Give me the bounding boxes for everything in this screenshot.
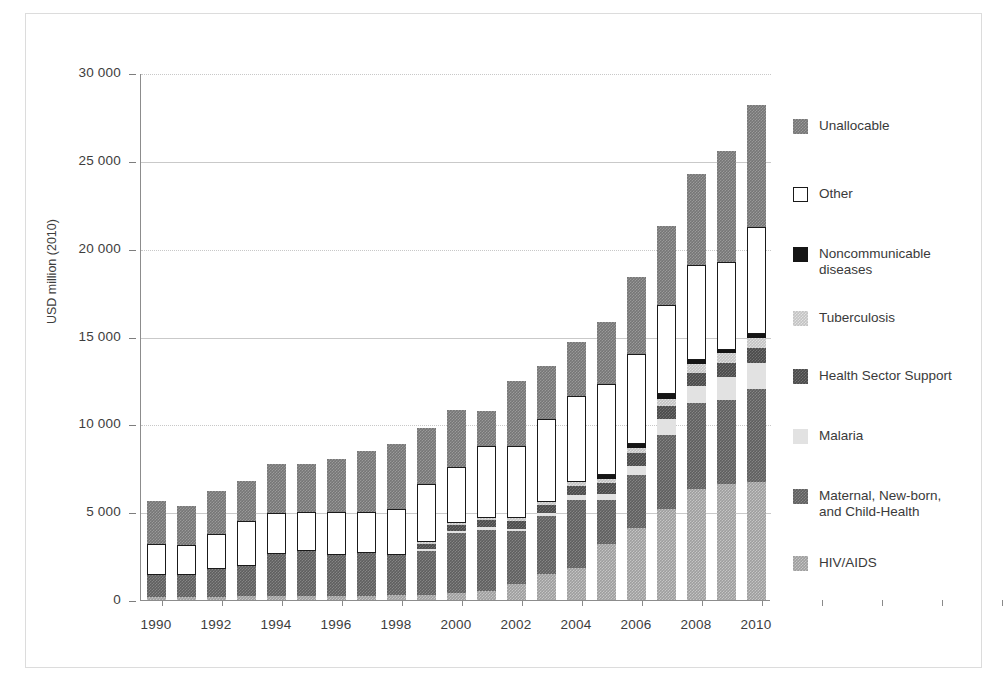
bar-segment-hiv-2004	[567, 568, 586, 600]
bar-segment-unallocable-1995	[297, 464, 316, 512]
y-tick-25000	[129, 162, 136, 163]
y-axis-title: USD million (2010)	[45, 219, 59, 324]
bar-segment-hiv-2003	[537, 574, 556, 600]
bar-segment-mnch-1994	[267, 554, 286, 596]
legend-label-malaria: Malaria	[819, 428, 863, 444]
bar-1998[interactable]	[387, 73, 406, 600]
bar-segment-mnch-2003	[537, 516, 556, 574]
bar-1991[interactable]	[177, 73, 196, 600]
bar-segment-other-2006	[627, 354, 646, 444]
bar-segment-hss-2009	[717, 363, 736, 377]
bar-2002[interactable]	[507, 73, 526, 600]
legend-item-hiv[interactable]: HIV/AIDS	[793, 555, 877, 571]
bar-2009[interactable]	[717, 73, 736, 600]
x-tick-2004	[1002, 600, 1003, 606]
bar-segment-hiv-2001	[477, 591, 496, 600]
bar-segment-malaria-1999	[417, 549, 436, 551]
legend-label-ncd: Noncommunicable diseases	[819, 246, 931, 278]
bar-segment-unallocable-2005	[597, 322, 616, 383]
bar-segment-mnch-2004	[567, 500, 586, 569]
bar-segment-other-2005	[597, 384, 616, 475]
bar-segment-mnch-2002	[507, 531, 526, 584]
legend-item-hss[interactable]: Health Sector Support	[793, 368, 952, 384]
bar-segment-hiv-2010	[747, 482, 766, 600]
bar-2007[interactable]	[657, 73, 676, 600]
y-tick-20000	[129, 250, 136, 251]
x-tick-1991	[222, 600, 223, 606]
y-tick-label-20000: 20 000	[49, 241, 121, 256]
x-axis-label-1992: 1992	[186, 617, 246, 632]
bar-segment-hiv-1996	[327, 596, 346, 600]
x-axis-label-1998: 1998	[366, 617, 426, 632]
bar-segment-tb-2010	[747, 338, 766, 348]
bar-segment-unallocable-2000	[447, 410, 466, 466]
bar-segment-other-1997	[357, 512, 376, 553]
x-tick-1990	[162, 600, 163, 606]
bar-segment-mnch-1999	[417, 551, 436, 595]
bar-2010[interactable]	[747, 73, 766, 600]
bar-2004[interactable]	[567, 73, 586, 600]
legend-item-mnch[interactable]: Maternal, New-born, and Child-Health	[793, 488, 941, 520]
chart-container: USD million (2010) 05 00010 00015 00020 …	[0, 0, 1006, 691]
bar-segment-hss-1999	[417, 544, 436, 549]
legend-item-ncd[interactable]: Noncommunicable diseases	[793, 246, 931, 278]
bar-segment-hiv-1995	[297, 596, 316, 600]
bar-segment-unallocable-1993	[237, 481, 256, 521]
x-tick-1994	[402, 600, 403, 606]
bar-2000[interactable]	[447, 73, 466, 600]
bar-1995[interactable]	[297, 73, 316, 600]
bar-segment-malaria-2009	[717, 377, 736, 400]
bar-1992[interactable]	[207, 73, 226, 600]
x-tick-2002	[882, 600, 883, 606]
bar-2006[interactable]	[627, 73, 646, 600]
bar-segment-other-2007	[657, 305, 676, 395]
bar-segment-hiv-1991	[177, 597, 196, 600]
bar-segment-malaria-2004	[567, 495, 586, 499]
bar-1990[interactable]	[147, 73, 166, 600]
bar-segment-unallocable-1998	[387, 444, 406, 509]
legend-label-hiv: HIV/AIDS	[819, 555, 877, 571]
bar-1996[interactable]	[327, 73, 346, 600]
x-axis-label-1990: 1990	[126, 617, 186, 632]
bar-1997[interactable]	[357, 73, 376, 600]
bar-2008[interactable]	[687, 73, 706, 600]
legend-swatch-hiv-icon	[793, 556, 808, 571]
bar-segment-mnch-2006	[627, 475, 646, 528]
legend-swatch-malaria-icon	[793, 429, 808, 444]
bar-2001[interactable]	[477, 73, 496, 600]
bar-segment-hss-2004	[567, 486, 586, 496]
y-tick-label-15000: 15 000	[49, 329, 121, 344]
bar-segment-unallocable-1994	[267, 464, 286, 512]
legend-item-malaria[interactable]: Malaria	[793, 428, 863, 444]
bar-segment-hiv-1992	[207, 597, 226, 600]
x-axis-label-2008: 2008	[666, 617, 726, 632]
bar-segment-hss-2001	[477, 520, 496, 527]
bar-segment-hiv-1998	[387, 595, 406, 600]
legend-swatch-ncd-icon	[793, 247, 808, 262]
bar-segment-malaria-2006	[627, 466, 646, 476]
bar-segment-mnch-1997	[357, 553, 376, 595]
bar-segment-tb-2005	[597, 479, 616, 483]
legend-item-other[interactable]: Other	[793, 186, 853, 202]
bar-segment-unallocable-1996	[327, 459, 346, 512]
bar-segment-other-1990	[147, 544, 166, 576]
legend-item-tb[interactable]: Tuberculosis	[793, 310, 895, 326]
bar-segment-hss-2005	[597, 483, 616, 494]
legend-item-unallocable[interactable]: Unallocable	[793, 118, 890, 134]
x-tick-1997	[582, 600, 583, 606]
bar-segment-hiv-2002	[507, 584, 526, 600]
bar-2005[interactable]	[597, 73, 616, 600]
bar-segment-mnch-1993	[237, 566, 256, 597]
y-tick-15000	[129, 338, 136, 339]
bar-segment-ncd-2010	[747, 334, 766, 338]
bar-segment-mnch-1998	[387, 555, 406, 595]
bar-1999[interactable]	[417, 73, 436, 600]
bar-segment-hiv-2000	[447, 593, 466, 600]
bar-segment-hiv-2008	[687, 489, 706, 600]
bar-segment-unallocable-1990	[147, 501, 166, 544]
bar-1993[interactable]	[237, 73, 256, 600]
bar-1994[interactable]	[267, 73, 286, 600]
bar-2003[interactable]	[537, 73, 556, 600]
y-tick-label-25000: 25 000	[49, 153, 121, 168]
bar-segment-unallocable-2008	[687, 174, 706, 265]
